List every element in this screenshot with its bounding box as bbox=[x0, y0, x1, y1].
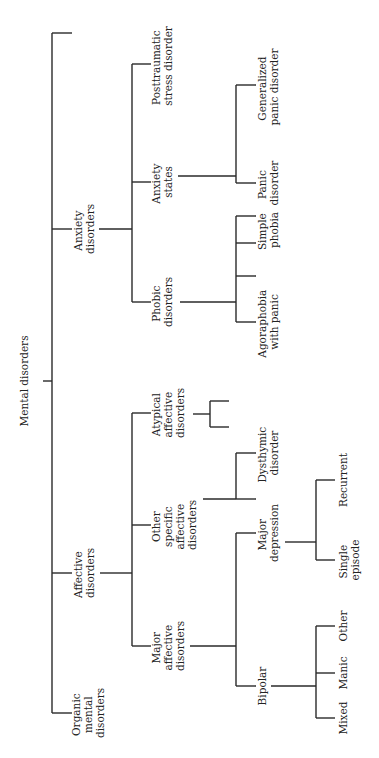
node-anxiety: Anxiety disorders bbox=[72, 204, 96, 254]
node-other-specific: Other specific affective disorders bbox=[150, 500, 198, 550]
node-manic: Manic bbox=[337, 656, 349, 689]
node-recurrent: Recurrent bbox=[337, 452, 349, 507]
node-major-affective: Major affective disorders bbox=[150, 621, 186, 671]
node-dysthymic: Dysthymic disorder bbox=[256, 423, 280, 482]
node-generalized: Generalized panic disorder bbox=[256, 47, 280, 125]
node-organic: Organic mental disorders bbox=[70, 688, 106, 738]
node-atypical: Atypical affective disorders bbox=[150, 388, 186, 438]
node-anxiety-states: Anxiety states bbox=[150, 160, 174, 204]
node-ptsd: Posttraumatic stress disorder bbox=[150, 25, 174, 106]
node-root: Mental disorders bbox=[18, 335, 30, 426]
node-single-episode: Single episode bbox=[337, 540, 361, 581]
taxonomy-tree-diagram: Mental disorders Organic mental disorder… bbox=[0, 0, 379, 758]
node-simple-phobia: Simple phobia bbox=[256, 210, 280, 250]
node-phobic: Phobic disorders bbox=[150, 277, 174, 327]
node-panic: Panic disorder bbox=[256, 160, 280, 206]
tree-lines: Mental disorders Organic mental disorder… bbox=[0, 0, 379, 758]
node-affective: Affective disorders bbox=[72, 548, 96, 599]
node-major-depression: Major depression bbox=[256, 504, 280, 562]
node-agoraphobia: Agoraphobia with panic bbox=[256, 286, 280, 358]
node-other: Other bbox=[337, 610, 349, 642]
node-mixed: Mixed bbox=[337, 701, 349, 734]
node-bipolar: Bipolar bbox=[256, 666, 268, 706]
